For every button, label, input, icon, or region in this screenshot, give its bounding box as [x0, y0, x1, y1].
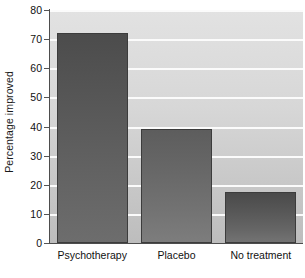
bar-chart: Percentage improved 01020304050607080 Ps…	[0, 0, 305, 278]
y-axis-tick-label: 40	[18, 121, 42, 132]
bar-psychotherapy	[57, 33, 128, 243]
x-axis-line	[49, 243, 303, 244]
x-axis-category-labels: PsychotherapyPlaceboNo treatment	[50, 249, 303, 269]
y-axis-tick-label: 70	[18, 34, 42, 45]
y-axis-tick-label: 10	[18, 209, 42, 220]
bar-no-treatment	[225, 192, 296, 243]
gridline	[50, 10, 303, 12]
x-axis-label-psychotherapy: Psychotherapy	[57, 249, 126, 262]
y-axis-title-text: Percentage improved	[3, 71, 15, 173]
plot-area	[50, 10, 303, 243]
y-axis-title: Percentage improved	[0, 0, 18, 243]
y-axis-tick-label: 60	[18, 63, 42, 74]
y-axis-tick-label: 30	[18, 150, 42, 161]
x-axis-label-placebo: Placebo	[158, 249, 196, 262]
y-axis-tick-label: 50	[18, 92, 42, 103]
y-axis-tick-label: 80	[18, 5, 42, 16]
y-axis-tick-label: 20	[18, 180, 42, 191]
y-axis-tick-label: 0	[18, 238, 42, 249]
y-axis-tick-labels: 01020304050607080	[18, 0, 42, 278]
x-axis-label-no-treatment: No treatment	[230, 249, 291, 262]
bar-placebo	[141, 129, 212, 243]
